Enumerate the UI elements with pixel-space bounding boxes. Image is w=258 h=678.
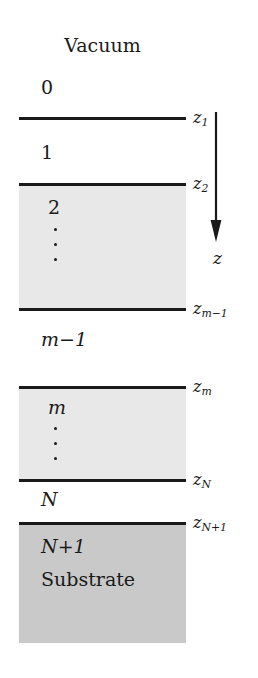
z-axis-arrow-icon	[205, 112, 227, 244]
interface-label-zN1: zN+1	[193, 515, 227, 534]
interface-line-zm	[19, 386, 186, 389]
layer-2-slab	[19, 186, 186, 310]
interface-label-zm-sub: m	[201, 385, 211, 398]
interface-label-zN1-sub: N+1	[201, 521, 227, 534]
layer-2-label: 2	[48, 198, 60, 217]
layer-m-slab	[19, 389, 186, 481]
layer-m-label: m	[48, 398, 66, 417]
interface-label-zN-sub: N	[201, 478, 211, 491]
interface-label-zm1: zm−1	[193, 301, 228, 320]
interface-line-z2	[19, 183, 186, 186]
interface-line-zN	[19, 479, 186, 482]
substrate-label: Substrate	[41, 570, 135, 589]
ellipsis-dots-upper	[50, 228, 60, 261]
layer-m-minus-1-label: m−1	[41, 330, 87, 349]
layer-N-label: N	[41, 490, 58, 509]
interface-label-zm: zm	[193, 379, 212, 398]
ellipsis-dots-lower	[50, 427, 60, 460]
layer-0-label: 0	[41, 78, 53, 97]
interface-line-z1	[19, 117, 186, 120]
interface-label-zN: zN	[193, 472, 211, 491]
layer-N-plus-1-label: N+1	[41, 537, 86, 556]
multilayer-stack-diagram: Vacuum 0 1 2 m−1 m N N+1 Substrate z1 z2…	[0, 0, 258, 678]
interface-line-zm1	[19, 308, 186, 311]
z-axis-label: z	[213, 250, 222, 267]
layer-1-label: 1	[41, 143, 53, 162]
vacuum-label: Vacuum	[0, 36, 205, 55]
interface-line-zN1	[19, 522, 186, 525]
interface-label-zm1-sub: m−1	[201, 307, 227, 320]
